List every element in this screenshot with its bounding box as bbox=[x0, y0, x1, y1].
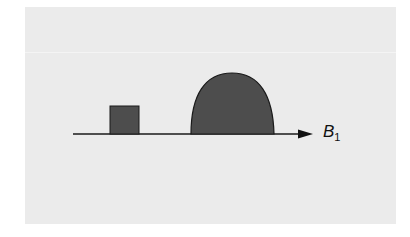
pulse-diagram bbox=[0, 0, 410, 237]
axis-arrow-icon bbox=[298, 130, 313, 139]
dome-pulse bbox=[191, 73, 274, 134]
rectangular-pulse bbox=[110, 106, 139, 134]
axis-label-subscript: 1 bbox=[334, 131, 340, 143]
axis-label-main: B bbox=[323, 122, 334, 141]
axis-label: B1 bbox=[323, 122, 340, 143]
